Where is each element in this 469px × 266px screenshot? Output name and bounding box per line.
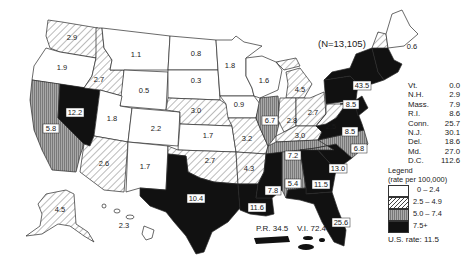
map-legend: Legend (rate per 100,000) 0 – 2.4 2.5 – …: [388, 167, 447, 244]
label-wi: 1.6: [259, 76, 269, 85]
label-or: 1.9: [57, 63, 67, 72]
label-il: 6.7: [262, 116, 278, 125]
label-oh: 2.7: [308, 108, 318, 117]
state-florida: [286, 188, 346, 246]
svg-text:11.6: 11.6: [250, 203, 264, 212]
territory-vi-2: [319, 238, 325, 242]
svg-text:13.0: 13.0: [331, 164, 346, 173]
label-ky: 3.0: [295, 131, 305, 140]
virgin-islands-label: V.I. 72.4: [297, 224, 326, 233]
svg-text:25.6: 25.6: [334, 218, 349, 227]
legend-bin-1: 2.5 – 4.9: [388, 197, 447, 209]
label-pa: 8.5: [343, 100, 359, 109]
svg-text:7.2: 7.2: [288, 151, 298, 160]
label-nv: 12.2: [66, 108, 84, 117]
label-al: 5.4: [285, 179, 301, 188]
svg-text:8.5: 8.5: [345, 127, 355, 136]
swatch-white: [388, 185, 409, 197]
territory-puerto-rico: [254, 236, 290, 244]
swatch-vertical: [388, 209, 409, 221]
label-wv: 2.5: [326, 122, 336, 131]
sample-size-label: (N=13,105): [318, 38, 366, 49]
small-state-row: Vt.0.0: [408, 81, 460, 90]
label-tn: 7.2: [285, 151, 301, 160]
label-ga: 11.5: [312, 180, 330, 189]
svg-text:7.8: 7.8: [268, 186, 278, 195]
label-mo: 3.2: [242, 134, 252, 143]
state-montana: [102, 28, 170, 70]
state-vermont-nh: [372, 32, 388, 48]
state-south-dakota: [168, 70, 220, 100]
legend-bin-0: 0 – 2.4: [388, 185, 447, 197]
state-hawaii-1: [102, 204, 106, 208]
state-hawaii-2: [114, 209, 120, 213]
label-mt: 1.1: [131, 50, 141, 59]
svg-text:6.7: 6.7: [265, 116, 275, 125]
label-hi: 2.3: [119, 221, 129, 230]
territory-vi-3: [298, 244, 314, 250]
label-ny: 43.5: [353, 81, 371, 90]
puerto-rico-label: P.R. 34.5: [256, 224, 288, 233]
label-sc: 13.0: [329, 164, 347, 173]
state-indiana: [278, 98, 296, 132]
label-ca: 5.8: [43, 124, 59, 133]
svg-text:6.8: 6.8: [354, 144, 364, 153]
svg-text:5.4: 5.4: [288, 179, 298, 188]
label-az: 2.6: [99, 159, 109, 168]
legend-subtitle: (rate per 100,000): [388, 176, 447, 185]
state-hawaii-4: [142, 226, 154, 240]
svg-text:8.5: 8.5: [346, 100, 356, 109]
label-id: 2.7: [94, 75, 104, 84]
small-state-row: Mass.7.9: [408, 100, 460, 109]
small-state-row: D.C.112.6: [408, 156, 460, 165]
small-state-row: N.J.30.1: [408, 128, 460, 137]
legend-bin-2: 5.0 – 7.4: [388, 209, 447, 221]
small-state-row: N.H.2.9: [408, 90, 460, 99]
label-va: 8.5: [342, 127, 358, 136]
label-co: 2.2: [151, 124, 161, 133]
label-sd: 0.3: [191, 76, 201, 85]
label-ia: 0.9: [234, 100, 244, 109]
svg-text:5.8: 5.8: [46, 124, 56, 133]
legend-bin-3: 7.5+: [388, 221, 447, 233]
svg-text:11.5: 11.5: [314, 180, 328, 189]
label-wy: 0.5: [139, 86, 149, 95]
label-mi: 4.5: [295, 85, 305, 94]
label-in: 2.8: [287, 116, 297, 125]
label-ks: 1.7: [203, 131, 213, 140]
us-rate-label: U.S. rate: 11.5: [388, 236, 447, 245]
swatch-black: [388, 221, 409, 233]
label-nc: 6.8: [351, 144, 367, 153]
small-state-row: Md.27.0: [408, 147, 460, 156]
small-state-row: Conn.25.7: [408, 119, 460, 128]
label-ne: 3.0: [191, 106, 201, 115]
label-nm: 1.7: [140, 162, 150, 171]
territory-vi-1: [303, 236, 313, 240]
state-hawaii-3: [126, 215, 134, 219]
label-ar: 4.3: [244, 164, 254, 173]
label-wa: 2.9: [67, 33, 77, 42]
label-nd: 0.8: [191, 49, 201, 58]
small-states-list: Vt.0.0 N.H.2.9 Mass.7.9 R.I.8.6 Conn.25.…: [408, 81, 460, 166]
svg-text:12.2: 12.2: [68, 108, 83, 117]
label-ak: 4.5: [55, 205, 65, 214]
small-state-row: R.I.8.6: [408, 109, 460, 118]
label-tx: 10.4: [187, 194, 205, 203]
label-ms: 7.8: [265, 186, 281, 195]
label-mn: 1.8: [225, 61, 235, 70]
label-ok: 2.7: [205, 156, 215, 165]
svg-text:43.5: 43.5: [355, 81, 370, 90]
label-ut: 1.8: [107, 114, 117, 123]
label-la: 11.6: [248, 203, 266, 212]
state-alaska: [26, 190, 94, 242]
svg-text:10.4: 10.4: [189, 194, 204, 203]
label-me: 0.6: [407, 42, 417, 51]
swatch-hatch: [388, 197, 409, 209]
label-fl: 25.6: [332, 218, 350, 227]
small-state-row: Del.18.6: [408, 137, 460, 146]
